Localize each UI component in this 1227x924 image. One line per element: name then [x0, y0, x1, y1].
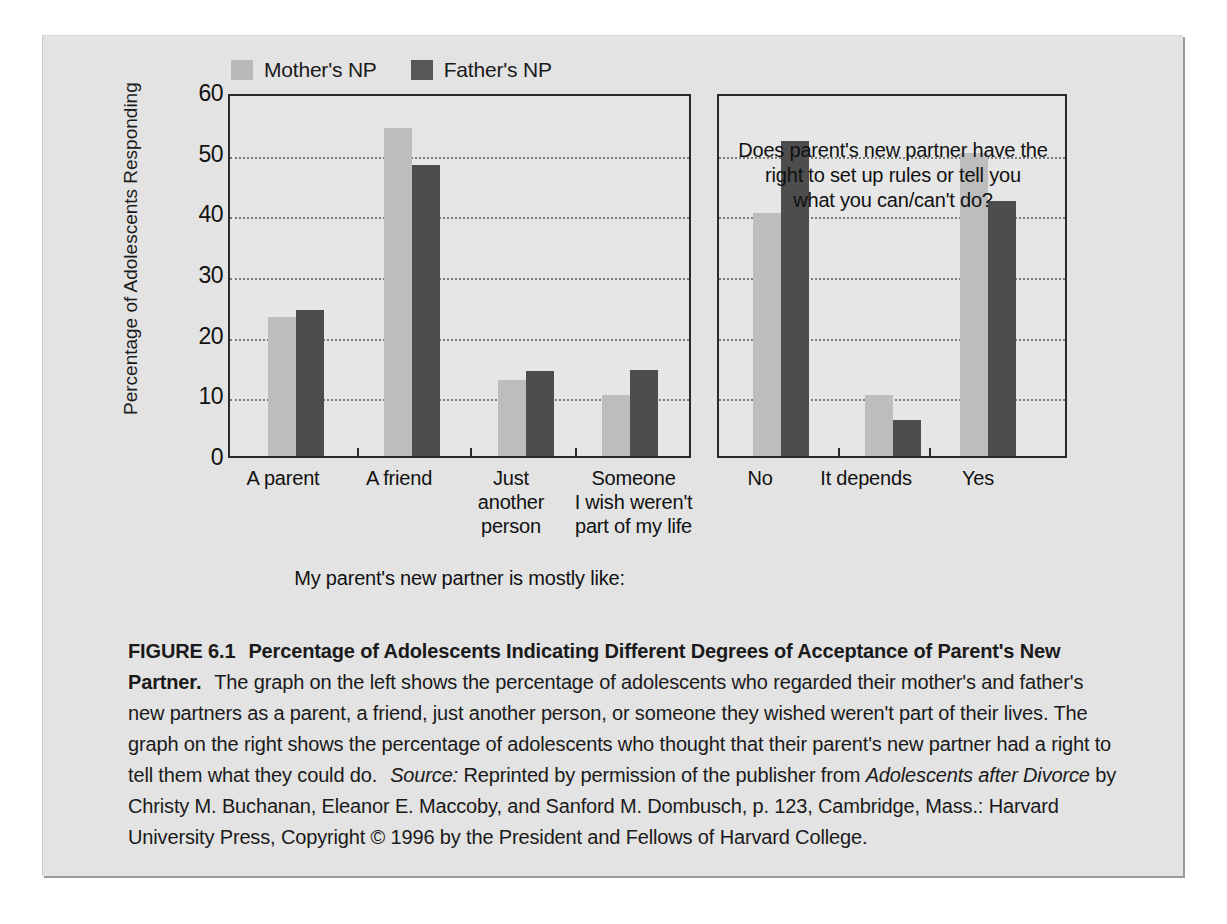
bar-group-a-friend — [368, 96, 456, 456]
right-chart-axis-caption: Does parent's new partner have the right… — [703, 138, 1083, 213]
bar-mothers-a-friend — [384, 128, 412, 456]
left-chart-panel — [228, 94, 691, 458]
right-caption-line1: Does parent's new partner have the — [703, 138, 1083, 163]
y-tick-30: 30 — [198, 262, 223, 289]
bar-fathers-it-depends — [893, 420, 921, 456]
bar-group-just-another-person — [482, 96, 570, 456]
bar-group-a-parent — [252, 96, 340, 456]
bar-mothers-someone-i-wish-werent — [602, 395, 630, 456]
bar-mothers-just-another-person — [498, 380, 526, 456]
legend-label-fathers-np: Father's NP — [444, 58, 552, 82]
y-axis-tick-labels: 60 50 40 30 20 10 0 — [168, 94, 223, 458]
legend-swatch-light-icon — [231, 60, 253, 80]
x-axis-tick-1 — [357, 448, 359, 457]
x-label-it-depends: It depends — [806, 466, 926, 490]
bar-mothers-it-depends — [865, 395, 893, 456]
x-axis-tick-2 — [470, 448, 472, 457]
right-caption-line2: right to set up rules or tell you — [703, 163, 1083, 188]
x-label-yes: Yes — [923, 466, 1033, 490]
x-axis-tick-r1 — [838, 448, 840, 457]
y-tick-60: 60 — [198, 80, 223, 107]
y-tick-50: 50 — [198, 141, 223, 168]
bar-fathers-a-parent — [296, 310, 324, 456]
bar-fathers-someone-i-wish-werent — [630, 370, 658, 456]
bar-fathers-just-another-person — [526, 371, 554, 456]
x-axis-tick-r2 — [929, 448, 931, 457]
figure-caption: FIGURE 6.1Percentage of Adolescents Indi… — [128, 636, 1118, 853]
y-tick-20: 20 — [198, 323, 223, 350]
figure-caption-source-label: Source: — [390, 764, 458, 786]
charts-container: Percentage of Adolescents Responding 60 … — [43, 94, 1183, 524]
legend-label-mothers-np: Mother's NP — [264, 58, 377, 82]
bar-group-someone-i-wish-werent — [586, 96, 674, 456]
right-x-axis-labels: No It depends Yes — [43, 464, 1183, 556]
left-plot-area — [230, 96, 689, 456]
bar-mothers-a-parent — [268, 317, 296, 457]
bar-fathers-yes — [988, 201, 1016, 456]
y-tick-40: 40 — [198, 201, 223, 228]
bar-mothers-no — [753, 213, 781, 456]
legend-entry-fathers-np: Father's NP — [411, 58, 552, 82]
bar-fathers-a-friend — [412, 165, 440, 456]
y-axis-title: Percentage of Adolescents Responding — [120, 115, 142, 415]
chart-legend: Mother's NP Father's NP — [231, 58, 552, 82]
legend-entry-mothers-np: Mother's NP — [231, 58, 377, 82]
left-chart-axis-caption: My parent's new partner is mostly like: — [228, 566, 691, 591]
y-tick-10: 10 — [198, 383, 223, 410]
x-label-no: No — [715, 466, 805, 490]
figure-caption-label: FIGURE 6.1 — [128, 640, 235, 662]
figure-panel: Mother's NP Father's NP Percentage of Ad… — [42, 35, 1183, 876]
x-axis-tick-3 — [575, 448, 577, 457]
legend-swatch-dark-icon — [411, 60, 433, 80]
figure-caption-source-title: Adolescents after Divorce — [866, 764, 1090, 786]
right-caption-line3: what you can/can't do? — [703, 188, 1083, 213]
figure-caption-source-text-1: Reprinted by permission of the publisher… — [463, 764, 860, 786]
